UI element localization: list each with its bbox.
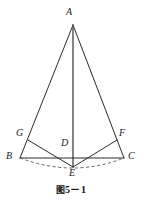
vertex-label-B: B <box>6 151 12 161</box>
figure-caption-cjk: 图 <box>56 185 65 195</box>
vertex-label-D: D <box>61 138 68 148</box>
vertex-label-C: C <box>128 151 135 161</box>
figure-caption: 图5－1 <box>0 184 142 196</box>
vertex-label-F: F <box>119 128 125 138</box>
segment-AC <box>73 25 124 158</box>
figure-caption-number: 5－1 <box>65 184 86 195</box>
vertex-label-G: G <box>16 128 23 138</box>
vertex-label-E: E <box>69 168 75 178</box>
geometry-figure: A B C D E F G 图5－1 <box>0 0 142 205</box>
vertex-label-A: A <box>66 7 72 17</box>
